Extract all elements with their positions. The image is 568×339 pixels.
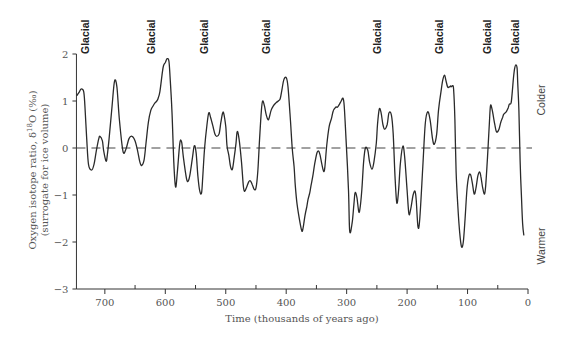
y-axis-title-line1: Oxygen isotope ratio, δ18O (‰) — [26, 90, 38, 249]
x-axis-title: Time (thousands of years ago) — [225, 313, 378, 324]
y-axis-title: Oxygen isotope ratio, δ18O (‰) (surrogat… — [26, 90, 50, 249]
x-tick-label: 700 — [95, 297, 114, 308]
x-tick-label: 500 — [216, 297, 235, 308]
glacial-labels: GlacialGlacialGlacialGlacialGlacialGlaci… — [79, 19, 521, 54]
x-tick-label: 400 — [277, 297, 296, 308]
chart-axes: 210−1−2−37006005004003002001000 — [54, 49, 532, 309]
y-tick-label: 0 — [62, 143, 68, 154]
x-tick-label: 200 — [398, 297, 417, 308]
x-tick-label: 100 — [458, 297, 477, 308]
y-axis-title-line2: (surrogate for ice volume) — [39, 104, 50, 237]
x-tick-label: 0 — [525, 297, 531, 308]
y-tick-label: −2 — [54, 237, 69, 248]
x-tick-label: 300 — [337, 297, 356, 308]
glacial-label: Glacial — [79, 19, 91, 54]
y-tick-label: −1 — [54, 190, 69, 201]
colder-label: Colder — [535, 84, 547, 115]
glacial-label: Glacial — [371, 19, 383, 54]
glacial-label: Glacial — [509, 19, 521, 54]
glacial-label: Glacial — [145, 19, 157, 54]
y-tick-label: 1 — [62, 96, 68, 107]
glacial-label: Glacial — [433, 19, 445, 54]
isotope-chart: 210−1−2−37006005004003002001000 GlacialG… — [0, 0, 568, 339]
glacial-label: Glacial — [260, 19, 272, 54]
y-tick-label: 2 — [62, 49, 68, 60]
isotope-curve — [77, 59, 524, 248]
y-tick-label: −3 — [54, 284, 69, 295]
x-tick-label: 600 — [156, 297, 175, 308]
glacial-label: Glacial — [198, 19, 210, 54]
glacial-label: Glacial — [481, 19, 493, 54]
warmer-label: Warmer — [535, 227, 547, 264]
